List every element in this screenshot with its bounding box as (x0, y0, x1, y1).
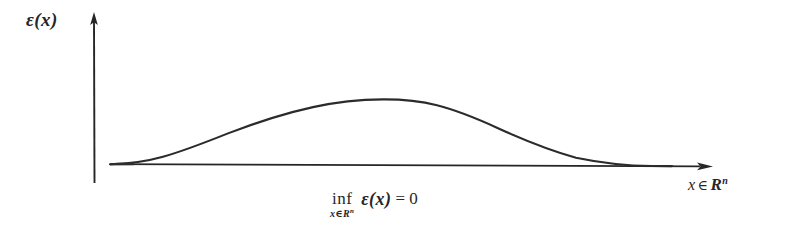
y-axis-line (94, 20, 95, 183)
infimum-subscript: x∈Rn (330, 208, 354, 219)
infimum-operator-label: inf (332, 190, 352, 207)
epsilon-curve (110, 99, 672, 166)
x-axis-label-variable: x (688, 176, 696, 193)
infimum-caption: inf x∈Rn ε(x) = 0 (330, 190, 418, 219)
infimum-subscript-member-icon: ∈ (335, 208, 343, 219)
x-axis-label-set: R (710, 175, 722, 194)
x-axis-label: x∈Rn (688, 176, 728, 193)
infimum-operator-group: inf x∈Rn (330, 190, 354, 219)
infimum-expression: ε(x) (361, 190, 391, 208)
infimum-subscript-exponent: n (350, 207, 354, 215)
x-axis-label-exponent: n (722, 175, 728, 186)
y-axis-label: ε(x) (26, 10, 58, 29)
figure-container: ε(x) x∈Rn inf x∈Rn ε(x) = 0 (0, 0, 793, 242)
x-axis-line (110, 164, 700, 166)
curve-left-tangency-mark (110, 163, 134, 166)
epsilon-curve-path (110, 99, 672, 166)
x-axis-label-member-icon: ∈ (696, 178, 711, 193)
infimum-value: 0 (409, 190, 418, 207)
y-axis (90, 12, 98, 183)
infimum-equals-sign: = (392, 190, 410, 207)
infimum-subscript-set: R (343, 208, 350, 219)
